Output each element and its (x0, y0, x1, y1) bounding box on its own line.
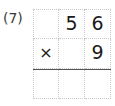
grid-cell-r2-c1[interactable] (59, 69, 85, 99)
grid-cell-r0-c0[interactable] (33, 9, 59, 39)
answer-rule-line (33, 69, 111, 70)
worksheet-problem: (7) 5 6 × 9 (0, 0, 115, 106)
grid-cell-r0-c2[interactable]: 6 (85, 9, 111, 39)
grid-cell-r2-c0[interactable] (33, 69, 59, 99)
grid-cell-r1-c1[interactable] (59, 39, 85, 69)
cell-value-r1-c2: 9 (91, 43, 103, 62)
multiplication-operator: × (39, 45, 52, 61)
grid-cell-r0-c1[interactable]: 5 (59, 9, 85, 39)
cell-value-r0-c2: 6 (91, 14, 103, 33)
problem-number-label: (7) (3, 9, 29, 27)
grid-cell-r1-c0[interactable]: × (33, 39, 59, 69)
grid-cell-r2-c2[interactable] (85, 69, 111, 99)
cell-value-r0-c1: 5 (65, 14, 77, 33)
calculation-grid: 5 6 × 9 (33, 9, 111, 99)
grid-cell-r1-c2[interactable]: 9 (85, 39, 111, 69)
